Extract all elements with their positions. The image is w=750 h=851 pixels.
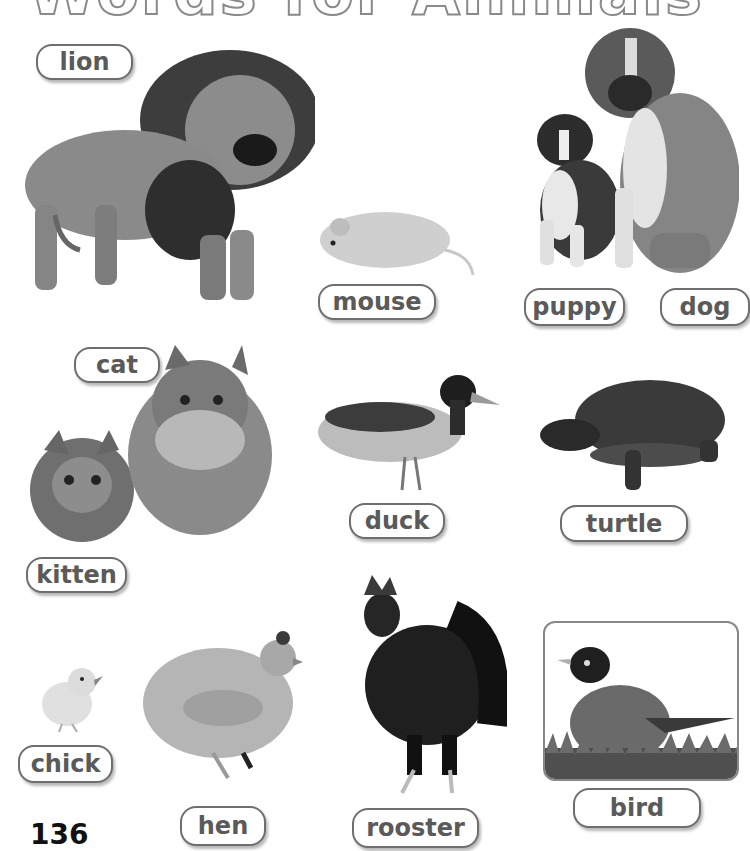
label-mouse: mouse (318, 284, 436, 320)
label-cat: cat (74, 347, 160, 383)
page-number: 136 (30, 818, 88, 851)
hen-image (133, 628, 303, 780)
rooster-image (352, 575, 507, 797)
chick-image (37, 662, 105, 732)
duck-image (310, 372, 500, 497)
label-chick: chick (18, 745, 113, 783)
label-hen: hen (180, 806, 266, 846)
dog-image (575, 18, 739, 278)
label-turtle: turtle (560, 505, 688, 542)
label-lion: lion (36, 44, 133, 80)
label-bird: bird (573, 788, 701, 828)
label-duck: duck (349, 503, 445, 539)
label-rooster: rooster (352, 808, 479, 848)
bird-photo-frame (543, 621, 739, 781)
turtle-image (535, 375, 730, 495)
label-dog: dog (660, 288, 750, 326)
bird-image (545, 623, 739, 781)
label-kitten: kitten (26, 557, 127, 593)
mouse-image (305, 205, 490, 280)
label-puppy: puppy (524, 288, 625, 326)
